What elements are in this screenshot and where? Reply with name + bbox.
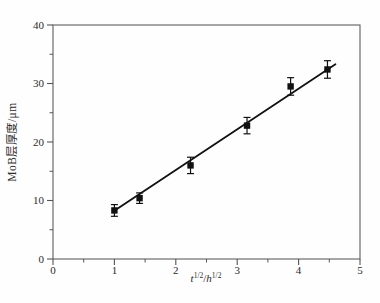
data-point-marker [136,195,142,201]
x-tick-label: 2 [173,264,179,276]
y-tick-label: 10 [33,194,45,206]
y-tick-label: 20 [33,136,45,148]
x-tick-label: 0 [50,264,56,276]
data-point-marker [187,162,193,168]
data-point-marker [244,122,250,128]
data-point-marker [287,83,293,89]
plot-frame [53,25,360,259]
x-tick-label: 4 [296,264,302,276]
x-axis-label: t1/2/h1/2 [191,271,222,285]
y-tick-label: 40 [33,19,45,31]
data-point-marker [324,66,330,72]
chart-figure: t1/2/h1/2 MoB层厚度/μm 012345010203040 [0,0,380,303]
x-tick-label: 5 [357,264,363,276]
y-tick-label: 0 [39,253,45,265]
x-tick-label: 3 [234,264,240,276]
y-tick-label: 30 [33,77,45,89]
y-axis-label: MoB层厚度/μm [5,102,19,181]
data-point-marker [111,207,117,213]
x-tick-label: 1 [112,264,118,276]
fit-line [113,64,335,211]
scatter-plot: t1/2/h1/2 MoB层厚度/μm 012345010203040 [0,0,380,303]
